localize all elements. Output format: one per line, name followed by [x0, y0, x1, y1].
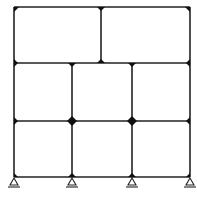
pin-support-icon — [66, 178, 78, 187]
supports — [8, 178, 196, 187]
rigid-joint-icon — [128, 63, 136, 67]
rigid-joint-icon — [14, 7, 19, 12]
rigid-joint-icon — [128, 173, 136, 177]
rigid-joint-icon — [97, 7, 105, 11]
rigid-joint-icon — [68, 173, 76, 177]
rigid-joint-icon — [14, 117, 18, 125]
pin-support-icon — [8, 178, 20, 187]
rigid-joint-icon — [186, 117, 190, 125]
frame-members — [14, 7, 190, 177]
joints — [14, 7, 190, 177]
rigid-joint-icon — [186, 59, 190, 67]
rigid-joint-icon — [97, 59, 105, 63]
rigid-joint-icon — [68, 63, 76, 67]
pin-support-icon — [184, 178, 196, 187]
rigid-joint-icon — [67, 116, 77, 126]
rigid-joint-icon — [14, 59, 18, 67]
rigid-joint-icon — [127, 116, 137, 126]
pin-support-icon — [126, 178, 138, 187]
frame-diagram — [0, 0, 197, 198]
rigid-joint-icon — [185, 7, 190, 12]
rigid-joint-icon — [186, 173, 190, 177]
